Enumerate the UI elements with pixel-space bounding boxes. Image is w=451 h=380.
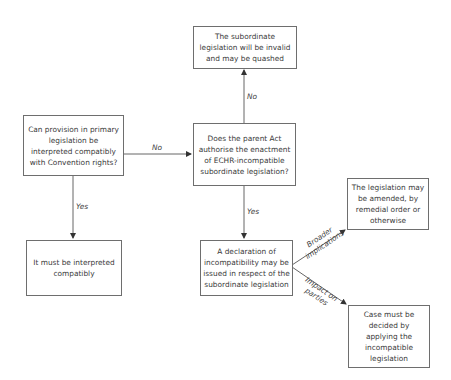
- interpret-compatibly-box: It must be interpreted compatibly: [26, 240, 122, 296]
- edge-label-yes: Yes: [76, 202, 88, 211]
- edge-label-no: No: [152, 143, 162, 152]
- edge-label-no-up: No: [247, 92, 257, 101]
- edge-label-yes-down: Yes: [247, 207, 259, 216]
- declaration-of-incompatibility-box: A declaration of incompatibility may be …: [200, 240, 293, 296]
- invalid-legislation-box: The subordinate legislation will be inva…: [193, 26, 297, 69]
- primary-legislation-question-box: Can provision in primary legislation be …: [23, 115, 124, 176]
- case-decided-box: Case must be decided by applying the inc…: [348, 305, 430, 368]
- legislation-amended-box: The legislation may be amended, by remed…: [347, 178, 429, 230]
- parent-act-question-box: Does the parent Act authorise the enactm…: [193, 123, 296, 186]
